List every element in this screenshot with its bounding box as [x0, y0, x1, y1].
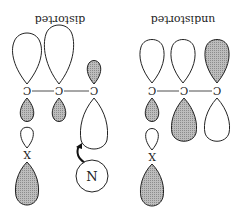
substituent-atom-x: X [23, 148, 31, 161]
p-orbital-lobe-unshaded [171, 40, 195, 84]
p-orbital-lobe-unshaded [204, 98, 229, 141]
carbon-atom: C [180, 84, 188, 97]
p-orbital-lobe-shaded [20, 98, 34, 122]
carbon-atom: C [23, 84, 31, 97]
carbon-atom: C [55, 84, 63, 97]
p-orbital-lobe-unshaded [140, 40, 164, 84]
panel-distorted: distorted C C C X N [13, 13, 108, 205]
carbon-atom: C [148, 84, 156, 97]
sigma-orbital-lobe-unshaded [146, 129, 159, 151]
panel-label-distorted: distorted [35, 13, 85, 26]
nucleophile-label: N [86, 169, 97, 184]
panel-undistorted: undistorted C C C X [140, 13, 230, 206]
sigma-orbital-lobe-unshaded [21, 127, 34, 148]
p-orbital-lobe-unshaded [80, 98, 107, 149]
orbital-diagram: distorted C C C X N undistorted [0, 0, 241, 223]
p-orbital-lobe-shaded [145, 98, 159, 122]
p-orbital-lobe-shaded [171, 98, 196, 141]
carbon-atom: C [213, 84, 221, 97]
p-orbital-lobe-shaded [205, 40, 229, 84]
p-orbital-lobe-shaded [87, 61, 101, 85]
p-orbital-lobe-unshaded [13, 33, 42, 84]
carbon-atom: C [90, 84, 98, 97]
p-orbital-lobe-unshaded [44, 25, 73, 84]
substituent-atom-x: X [148, 150, 156, 163]
p-orbital-lobe-shaded [52, 98, 66, 122]
panel-label-undistorted: undistorted [151, 13, 216, 26]
sigma-orbital-lobe-shaded [15, 162, 38, 205]
sigma-orbital-lobe-shaded [140, 164, 163, 206]
